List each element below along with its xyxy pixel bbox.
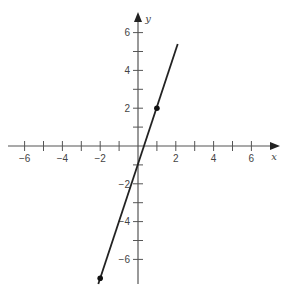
y-tick-label: −6 xyxy=(119,254,131,265)
x-tick-label: 4 xyxy=(211,153,217,164)
x-tick-label: 6 xyxy=(249,153,255,164)
x-tick-label: 2 xyxy=(173,153,179,164)
y-axis-label: y xyxy=(144,13,151,24)
y-tick-label: 6 xyxy=(124,27,130,38)
y-tick-label: −2 xyxy=(119,179,131,190)
y-tick-label: 2 xyxy=(124,103,130,114)
coordinate-plane: −6 −4 −2 2 4 6 6 4 2 −2 −4 −6 x y xyxy=(0,0,291,295)
x-axis-arrow-icon xyxy=(270,142,280,150)
y-axis-arrow-icon xyxy=(134,12,142,22)
y-tick-label: 4 xyxy=(124,65,130,76)
x-tick-label: −6 xyxy=(19,153,31,164)
point-1-2 xyxy=(154,105,160,111)
x-axis-label: x xyxy=(271,151,277,162)
point-neg2-neg7 xyxy=(97,276,103,282)
x-tick-label: −4 xyxy=(57,153,69,164)
x-tick-label: −2 xyxy=(94,153,106,164)
